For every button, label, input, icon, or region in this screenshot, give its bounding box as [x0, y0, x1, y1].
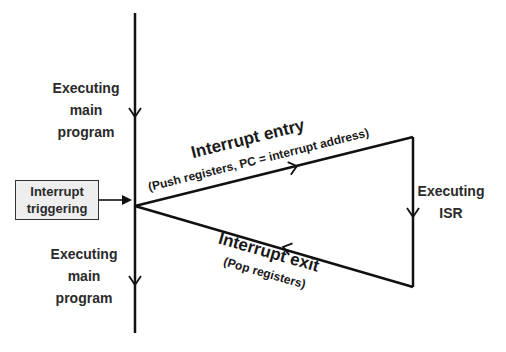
bottom-main-program-label: Executing main program: [40, 243, 128, 309]
isr-label: Executing ISR: [414, 180, 488, 224]
label-line: ISR: [414, 202, 488, 224]
interrupt-triggering-box: Interrupt triggering: [15, 180, 99, 220]
label-line: main: [40, 265, 128, 287]
label-line: Executing: [414, 180, 488, 202]
label-line: program: [40, 287, 128, 309]
label-line: program: [42, 121, 130, 143]
box-line: Interrupt: [16, 183, 98, 200]
box-line: triggering: [16, 200, 98, 217]
top-main-program-label: Executing main program: [42, 77, 130, 143]
label-line: Executing: [40, 243, 128, 265]
label-line: main: [42, 99, 130, 121]
trigger-arrowhead-icon: [122, 195, 132, 205]
interrupt-entry-path: [135, 137, 413, 206]
label-line: Executing: [42, 77, 130, 99]
